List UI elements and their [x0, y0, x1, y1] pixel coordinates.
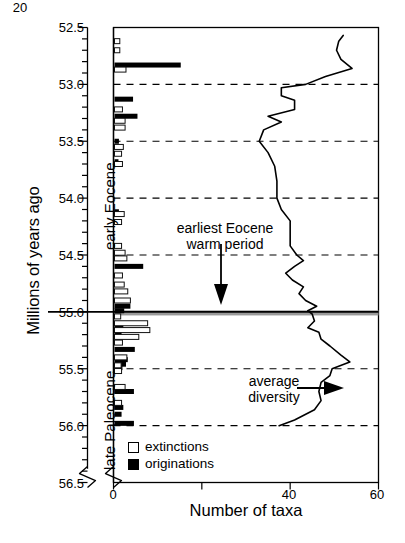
bar-extinction — [115, 67, 126, 72]
bar-extinction — [115, 355, 127, 360]
bar-extinction — [115, 314, 121, 319]
bar-origination — [115, 264, 144, 269]
bar-extinction — [115, 363, 122, 368]
y-tick-label: 54.5 — [44, 248, 84, 263]
diversity-arrow-head — [324, 381, 344, 395]
annotation-average-diversity: average diversity — [231, 373, 317, 405]
legend-swatch-originations — [128, 459, 139, 470]
bar-extinction — [115, 334, 139, 339]
bar-origination — [115, 139, 119, 144]
bar-extinction — [115, 48, 120, 53]
era-label-early-eocene: early Eocene — [101, 162, 118, 250]
bar-extinction — [115, 107, 123, 112]
bar-extinction — [115, 118, 126, 123]
annotation-warm-period-line1: earliest Eocene — [155, 220, 295, 236]
x-tick-label: 20 — [0, 0, 40, 15]
y-tick-label: 56.5 — [44, 476, 84, 491]
x-tick-label: 60 — [357, 487, 397, 502]
bar-extinction — [115, 125, 126, 130]
legend-label-extinctions: extinctions — [145, 439, 209, 454]
annotation-average-diversity-line1: average — [231, 373, 317, 389]
legend-swatch-extinctions — [128, 442, 139, 453]
annotation-warm-period-line2: warm period — [155, 236, 295, 252]
y-tick-label: 55.0 — [44, 305, 84, 320]
warm-period-arrow-head — [214, 284, 228, 305]
bar-origination — [115, 97, 134, 102]
bar-origination — [115, 304, 131, 309]
bar-extinction — [115, 321, 148, 326]
y-tick-label: 52.5 — [44, 20, 84, 35]
y-tick-label: 53.5 — [44, 134, 84, 149]
y-tick-label: 53.0 — [44, 77, 84, 92]
era-label-late-paleocene: late Paleocene — [101, 371, 118, 470]
bar-extinction — [115, 328, 150, 333]
bar-origination — [115, 347, 135, 352]
bar-extinction — [115, 298, 131, 303]
legend-label-originations: originations — [145, 456, 214, 471]
y-tick-label: 54.0 — [44, 191, 84, 206]
bar-extinction — [115, 39, 120, 44]
x-tick-label: 40 — [269, 487, 309, 502]
figure-chart: Millions of years ago Number of taxa 52.… — [0, 0, 405, 543]
bar-origination — [115, 308, 125, 313]
bar-extinction — [115, 256, 127, 261]
bar-extinction — [115, 151, 122, 156]
bar-extinction — [115, 340, 123, 345]
y-tick-label: 56.0 — [44, 419, 84, 434]
bar-extinction — [115, 273, 123, 278]
bar-extinction — [115, 250, 126, 255]
bar-extinction — [115, 144, 124, 149]
y-tick-label: 55.5 — [44, 362, 84, 377]
x-tick-label: 0 — [93, 487, 133, 502]
annotation-average-diversity-line2: diversity — [231, 389, 317, 405]
annotation-warm-period: earliest Eocene warm period — [155, 220, 295, 252]
bar-extinction — [115, 289, 128, 294]
bar-extinction — [115, 282, 125, 287]
